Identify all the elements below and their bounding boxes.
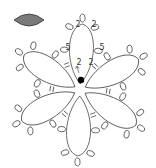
stitch-count-label: 2 [88, 58, 93, 67]
picot [86, 150, 95, 158]
picot [51, 50, 60, 60]
stitch-count-label: 2 [91, 20, 96, 29]
picot [49, 119, 58, 129]
picot [136, 124, 146, 133]
stitch-count-label: 2 [75, 20, 80, 29]
flower-petals [3, 13, 156, 166]
picot [119, 82, 127, 91]
picot [33, 89, 41, 98]
picot [14, 104, 23, 113]
petal-ring [56, 95, 101, 166]
picot [103, 52, 112, 62]
shuttle-icon [14, 14, 44, 26]
picot [137, 67, 146, 76]
picot [15, 63, 25, 72]
tatting-diagram: 225522 [0, 0, 156, 168]
picot [27, 127, 33, 136]
picot [100, 121, 109, 131]
picot [123, 130, 130, 139]
petal-ring [3, 74, 85, 144]
start-point-dot [78, 77, 84, 83]
picot [75, 158, 80, 166]
picot [12, 120, 22, 128]
picot [14, 48, 24, 57]
picot [126, 45, 132, 54]
petal-ring [74, 75, 156, 148]
petal-ring [4, 32, 86, 105]
picot [33, 79, 41, 88]
direction-arrow-icon [76, 66, 80, 73]
picot [119, 92, 127, 101]
stitch-count-label: 5 [99, 43, 104, 52]
picot [60, 149, 69, 156]
petal-ring [75, 36, 156, 106]
picot [57, 126, 66, 132]
picot [80, 14, 85, 22]
picot [91, 128, 99, 134]
picot [65, 23, 74, 31]
stitch-count-label: 5 [65, 43, 70, 52]
picot [30, 41, 37, 50]
picot [139, 52, 149, 60]
stitch-count-label: 2 [76, 58, 81, 67]
picot [135, 108, 145, 117]
